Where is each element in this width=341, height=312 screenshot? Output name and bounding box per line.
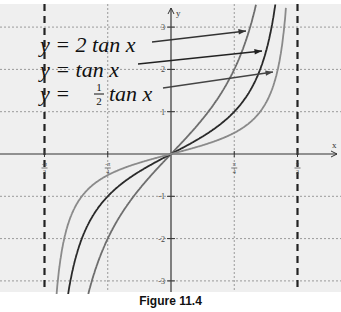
x-tick-label-numerator: -π	[42, 161, 47, 167]
x-tick-label-denominator: 4	[233, 169, 236, 175]
equation-label-halftanx: y = 12tan x	[38, 81, 153, 107]
equation-label-2tanx: y = 2 tan x	[38, 32, 136, 57]
tangent-figure: xy 321-1-2-3-π2-π4π4π2 y = 2 tan xy = ta…	[0, 0, 341, 312]
eq3-y: y =	[38, 81, 70, 106]
x-tick-label-numerator: π	[233, 161, 236, 167]
y-tick-label: 3	[161, 23, 165, 32]
y-axis-label: y	[176, 8, 181, 18]
plot-area: xy 321-1-2-3-π2-π4π4π2 y = 2 tan xy = ta…	[0, 0, 341, 294]
x-tick-label-denominator: 2	[43, 169, 46, 175]
x-tick-label-numerator: -π	[105, 161, 110, 167]
figure-caption: Figure 11.4	[0, 294, 341, 308]
x-tick-label-denominator: 2	[296, 169, 299, 175]
y-tick-label: 2	[161, 65, 165, 74]
y-tick-label: 1	[161, 108, 165, 117]
eq3-tail: tan x	[109, 81, 153, 106]
equation-label-tanx: y = tan x	[38, 57, 119, 82]
y-tick-label: -2	[158, 235, 165, 244]
y-tick-label: -3	[158, 277, 165, 286]
eq3-denominator: 2	[96, 95, 102, 107]
y-tick-label: -1	[158, 192, 165, 201]
x-axis-label: x	[332, 140, 337, 150]
eq3-numerator: 1	[96, 81, 102, 93]
x-tick-label-numerator: π	[296, 161, 299, 167]
